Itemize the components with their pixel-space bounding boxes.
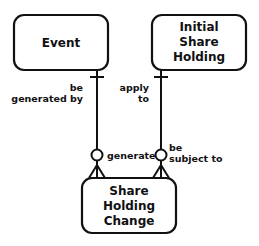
entity-event: Event [14, 15, 108, 70]
rel-label-apply: apply [120, 82, 150, 93]
zero-circle-icon [156, 150, 167, 161]
entity-share-holding-change: Share Holding Change [82, 178, 176, 233]
rel-label-to: to [138, 93, 150, 104]
entity-share-holding-change-label-3: Change [104, 214, 155, 228]
entity-initial-share-holding-label-3: Holding [173, 50, 225, 64]
entity-initial-share-holding-label-2: Share [179, 35, 218, 49]
crows-foot-icon [153, 165, 161, 178]
entity-share-holding-change-label-1: Share [109, 184, 148, 198]
relationship-initial-applies-to-change: apply to be subject to [120, 70, 223, 178]
rel-label-generate: generate [107, 150, 156, 161]
rel-label-be: be [70, 82, 83, 93]
rel-label-be: be [169, 142, 182, 153]
rel-label-generated-by: generated by [11, 93, 83, 104]
entity-initial-share-holding: Initial Share Holding [152, 15, 246, 70]
entity-initial-share-holding-label-1: Initial [179, 20, 218, 34]
zero-circle-icon [92, 150, 103, 161]
rel-label-subject-to: subject to [169, 153, 223, 164]
crows-foot-icon [89, 165, 97, 178]
entity-event-label: Event [42, 36, 81, 50]
entity-share-holding-change-label-2: Holding [103, 199, 155, 213]
er-diagram: Event Initial Share Holding Share Holdin… [0, 0, 259, 246]
